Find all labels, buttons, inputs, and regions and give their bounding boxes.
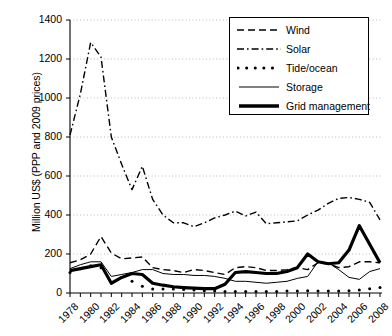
legend-label-solar: Solar (286, 43, 311, 55)
legend-label-tide-ocean: Tide/ocean (286, 62, 338, 74)
legend-swatch-grid-management (237, 100, 281, 112)
y-axis-tick-label: 600 (26, 169, 62, 181)
chart-legend: Wind Solar Tide/ocean Storage Grid manag… (229, 17, 369, 115)
legend-swatch-solar (237, 43, 281, 55)
legend-item-solar: Solar (237, 40, 311, 57)
y-axis-tick-label: 800 (26, 130, 62, 142)
legend-label-storage: Storage (286, 81, 323, 93)
legend-item-tide-ocean: Tide/ocean (237, 59, 338, 76)
y-axis-tick-label: 200 (26, 247, 62, 259)
y-axis-tick-label: 0 (26, 286, 62, 298)
legend-item-grid-management: Grid management (237, 97, 370, 114)
legend-item-wind: Wind (237, 21, 310, 38)
legend-swatch-wind (237, 24, 281, 36)
y-axis-tick-label: 400 (26, 208, 62, 220)
legend-label-wind: Wind (286, 24, 310, 36)
legend-swatch-tide-ocean (237, 62, 281, 74)
legend-item-storage: Storage (237, 78, 323, 95)
legend-swatch-storage (237, 81, 281, 93)
legend-label-grid-management: Grid management (286, 100, 370, 112)
y-axis-tick-label: 1400 (26, 13, 62, 25)
chart-container: Million US$ (PPP and 2009 prices) Wind S… (0, 0, 392, 336)
y-axis-tick-label: 1000 (26, 91, 62, 103)
y-axis-tick-label: 1200 (26, 52, 62, 64)
